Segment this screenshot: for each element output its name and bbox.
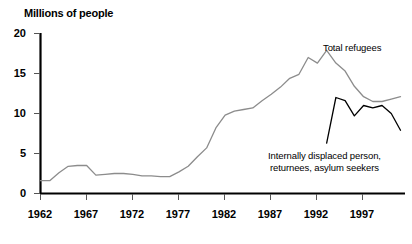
x-tick-label-1972: 1972 xyxy=(110,208,154,220)
series-line-internally-displaced xyxy=(327,98,401,144)
annotation-idp-line2: returnees, asylum seekers xyxy=(268,162,381,174)
x-tick-label-1982: 1982 xyxy=(202,208,246,220)
annotation-idp-line1: Internally displaced person, xyxy=(268,150,381,162)
y-tick-label-0: 0 xyxy=(4,187,26,199)
x-tick-label-1997: 1997 xyxy=(340,208,384,220)
x-tick-label-1977: 1977 xyxy=(156,208,200,220)
x-tick-label-1992: 1992 xyxy=(294,208,338,220)
annotation-total-refugees: Total refugees xyxy=(323,42,381,54)
y-tick-label-20: 20 xyxy=(4,27,26,39)
x-tick-label-1987: 1987 xyxy=(248,208,292,220)
chart-container: Millions of people 20 15 xyxy=(0,0,412,244)
x-tick-label-1967: 1967 xyxy=(64,208,108,220)
y-tick-label-5: 5 xyxy=(4,147,26,159)
y-tick-label-10: 10 xyxy=(4,107,26,119)
x-tick-label-1962: 1962 xyxy=(18,208,62,220)
annotation-internally-displaced: Internally displaced person, returnees, … xyxy=(268,150,381,174)
y-tick-label-15: 15 xyxy=(4,67,26,79)
x-axis-ticks xyxy=(41,194,363,200)
y-axis-ticks xyxy=(34,34,40,194)
